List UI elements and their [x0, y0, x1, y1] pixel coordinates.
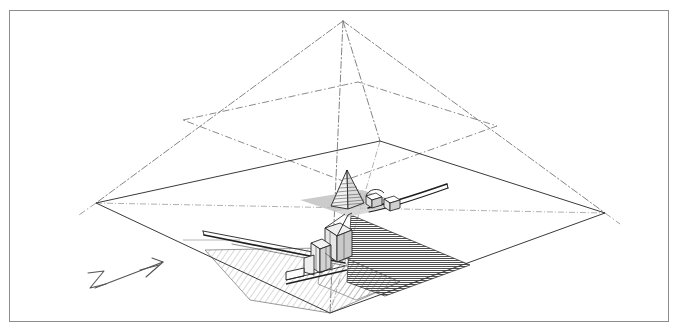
- chapel-main-south-wall: [337, 230, 352, 262]
- chapel-foot-block: [304, 255, 314, 275]
- chapel-pylon-south-wall: [320, 245, 331, 273]
- pyramid-axonometric-drawing: [0, 0, 678, 332]
- figure-root: Pyramid complex axonometric reconstructi…: [0, 0, 678, 332]
